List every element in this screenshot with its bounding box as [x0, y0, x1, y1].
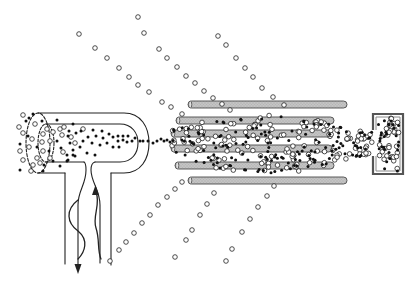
lower-trajectory-1	[108, 180, 185, 264]
rod-1	[188, 101, 347, 108]
neutral-molecule	[370, 140, 375, 145]
neutral-molecule	[202, 89, 207, 94]
ion-particle	[332, 144, 335, 147]
ion-particle	[280, 115, 283, 118]
neutral-molecule	[266, 165, 271, 170]
ion-particle	[312, 158, 315, 161]
ion-particle	[355, 144, 358, 147]
upper-trajectory-3	[216, 34, 287, 108]
neutral-molecule	[196, 138, 201, 143]
neutral-molecule	[228, 108, 233, 113]
ion-particle	[388, 151, 391, 154]
neutral-molecule	[247, 125, 252, 130]
ion-particle	[379, 137, 382, 140]
ion-particle	[307, 154, 310, 157]
neutral-molecule	[193, 81, 198, 86]
lower-trajectory-2	[173, 191, 217, 260]
ion-particle	[19, 169, 22, 172]
ion-particle	[396, 169, 399, 172]
ion-particle	[242, 143, 245, 146]
ion-particle	[36, 146, 39, 149]
ion-particle	[175, 151, 178, 154]
neutral-molecule	[180, 112, 185, 117]
ion-particle	[328, 133, 331, 136]
ion-particle	[268, 131, 271, 134]
ion-particle	[82, 140, 85, 143]
ion-particle	[43, 164, 46, 167]
ion-particle	[359, 146, 362, 149]
ion-particle	[331, 154, 334, 157]
neutral-molecule	[272, 184, 277, 189]
ion-particle	[344, 152, 347, 155]
rod-end-cap	[189, 177, 192, 184]
ion-particle	[79, 146, 82, 149]
beam-ion	[160, 138, 163, 141]
lower-trajectory-3	[224, 184, 277, 264]
ion-particle	[287, 139, 290, 142]
neutral-molecule	[35, 156, 40, 161]
neutral-molecule	[224, 164, 229, 169]
neutral-molecule	[61, 150, 66, 155]
neutral-molecule	[225, 149, 230, 154]
ion-particle	[108, 133, 111, 136]
beam-ion	[169, 141, 172, 144]
neutral-molecule	[18, 149, 23, 154]
neutral-molecule	[387, 145, 392, 150]
ion-particle	[32, 113, 35, 116]
neutral-molecule	[395, 120, 400, 125]
neutral-molecule	[212, 191, 217, 196]
ion-particle	[101, 130, 104, 133]
ion-particle	[127, 135, 130, 138]
neutral-molecule	[48, 156, 53, 161]
ion-particle	[216, 161, 219, 164]
neutral-molecule	[345, 136, 350, 141]
neutral-molecule	[271, 95, 276, 100]
ion-particle	[383, 167, 386, 170]
neutral-molecule	[216, 34, 221, 39]
funnel	[344, 129, 375, 161]
neutral-molecule	[268, 122, 273, 127]
neutral-molecule	[269, 154, 274, 159]
ion-particle	[307, 165, 310, 168]
ion-particle	[338, 146, 341, 149]
outflow-wave-line	[69, 200, 85, 259]
rod-6	[188, 177, 347, 184]
ion-particle	[234, 131, 237, 134]
ion-particle	[328, 157, 331, 160]
upper-trajectory-1	[77, 32, 185, 117]
ion-particle	[385, 160, 388, 163]
ion-particle	[74, 155, 77, 158]
ion-particle	[327, 123, 330, 126]
ion-particle	[67, 159, 70, 162]
beam-ion	[166, 139, 169, 142]
neutral-molecule	[206, 137, 211, 142]
neutral-molecule	[62, 125, 67, 130]
ion-particle	[72, 123, 75, 126]
neutral-molecule	[223, 138, 228, 143]
ion-particle	[280, 169, 283, 172]
ion-particle	[396, 149, 399, 152]
neutral-molecule	[268, 135, 273, 140]
ion-particle	[263, 131, 266, 134]
ion-particle	[42, 170, 45, 173]
neutral-molecule	[93, 46, 98, 51]
ion-particle	[60, 147, 63, 150]
neutral-molecule	[256, 205, 261, 210]
neutral-molecule	[202, 144, 207, 149]
neutral-molecule	[251, 148, 256, 153]
neutral-molecule	[30, 137, 35, 142]
ion-particle	[212, 163, 215, 166]
ion-particle	[267, 142, 270, 145]
ion-particle	[388, 157, 391, 160]
ion-particle	[66, 154, 69, 157]
ion-particle	[56, 140, 59, 143]
ion-particle	[117, 140, 120, 143]
ion-particle	[172, 128, 175, 131]
ion-particle	[48, 150, 51, 153]
neutral-molecule	[285, 147, 290, 152]
ion-particle	[325, 162, 328, 165]
ion-particle	[56, 119, 59, 122]
neutral-molecule	[157, 47, 162, 52]
beam-ion	[147, 140, 150, 143]
ion-particle	[244, 141, 247, 144]
